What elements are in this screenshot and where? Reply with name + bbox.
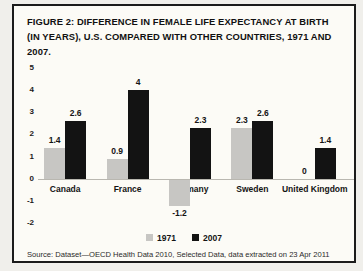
chart-legend: 1971 2007 (14, 232, 354, 244)
value-label: -1.2 (163, 208, 197, 219)
value-label: 4 (121, 77, 155, 88)
y-tick-label: 0 (14, 174, 34, 184)
legend-swatch-2007-icon (192, 234, 199, 241)
y-tick-label: -2 (14, 218, 34, 228)
value-label: 1.4 (308, 135, 342, 146)
bar-2007 (252, 121, 273, 179)
plot-area: 543210-1-2Canada1.42.6France0.94Germany-… (14, 68, 354, 230)
value-label: 2.6 (59, 108, 93, 119)
legend-item-2007: 2007 (192, 233, 222, 243)
figure-box: FIGURE 2: DIFFERENCE IN FEMALE LIFE EXPE… (12, 4, 356, 263)
legend-item-1971: 1971 (146, 233, 176, 243)
y-tick-label: -1 (14, 196, 34, 206)
bar-2007 (65, 121, 86, 179)
legend-swatch-1971-icon (146, 234, 153, 241)
category-label: United Kingdom (277, 184, 353, 195)
figure-title: FIGURE 2: DIFFERENCE IN FEMALE LIFE EXPE… (14, 6, 354, 60)
value-label: 2.3 (184, 115, 218, 126)
legend-label-1971: 1971 (157, 233, 176, 243)
bar-1971 (44, 148, 65, 179)
y-tick-label: 5 (14, 63, 34, 73)
bar-1971 (169, 180, 190, 207)
source-note: Source: Dataset—OECD Health Data 2010, S… (14, 244, 354, 263)
legend-label-2007: 2007 (203, 233, 222, 243)
y-tick-label: 1 (14, 152, 34, 162)
y-tick-label: 2 (14, 129, 34, 139)
value-label: 2.6 (246, 108, 280, 119)
bar-2007 (190, 128, 211, 179)
y-tick-label: 4 (14, 85, 34, 95)
y-tick-label: 3 (14, 107, 34, 117)
bar-1971 (107, 159, 128, 179)
bar-2007 (315, 148, 336, 179)
x-axis-baseline (38, 179, 354, 180)
bar-2007 (128, 90, 149, 179)
bar-1971 (231, 128, 252, 179)
